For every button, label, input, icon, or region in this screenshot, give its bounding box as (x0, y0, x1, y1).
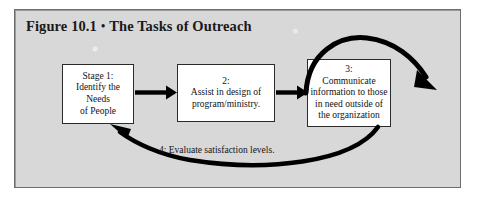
stage-1-line-1: Stage 1: (83, 71, 114, 81)
process-box-stage-1: Stage 1: Identify the Needs of People (62, 64, 134, 124)
stage-3-line-5: the organization (318, 110, 379, 120)
process-box-stage-3: 3: Communicate information to those in n… (307, 59, 391, 127)
process-box-stage-2: 2: Assist in design of program/ministry. (177, 64, 275, 122)
figure-title-text: The Tasks of Outreach (109, 18, 251, 34)
stage-1-line-3: of People (80, 106, 116, 116)
bullet-separator-icon: • (97, 19, 109, 33)
figure-root: Figure 10.1•The Tasks of Outreach Stage … (0, 0, 486, 208)
stage-3-line-3: information to those (310, 87, 387, 97)
stage-3-line-1: 3: (345, 64, 352, 74)
feedback-caption: 4: Evaluate satisfaction levels. (159, 145, 275, 155)
process-box-stage-3-text: 3: Communicate information to those in n… (308, 64, 389, 122)
stage-3-line-2: Communicate (322, 76, 375, 86)
stage-3-line-4: in need outside of (315, 99, 383, 109)
stage-2-line-3: program/ministry. (192, 99, 260, 109)
figure-title: Figure 10.1•The Tasks of Outreach (26, 18, 252, 35)
figure-number: Figure 10.1 (26, 18, 97, 34)
stage-2-line-1: 2: (222, 76, 229, 86)
stage-1-line-2: Identify the Needs (76, 82, 120, 104)
process-box-stage-1-text: Stage 1: Identify the Needs of People (63, 71, 133, 117)
process-box-stage-2-text: 2: Assist in design of program/ministry. (189, 76, 263, 111)
stage-2-line-2: Assist in design of (191, 87, 261, 97)
